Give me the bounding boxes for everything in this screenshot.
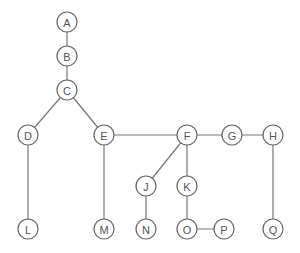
node-q: Q: [263, 219, 283, 239]
node-c: C: [57, 80, 77, 100]
node-p: P: [214, 219, 234, 239]
node-label: M: [99, 224, 108, 236]
node-g: G: [222, 125, 242, 145]
node-label: F: [184, 130, 191, 142]
node-label: O: [183, 224, 192, 236]
node-label: G: [228, 130, 237, 142]
node-o: O: [177, 219, 197, 239]
node-e: E: [94, 125, 114, 145]
node-b: B: [57, 46, 77, 66]
node-label: E: [100, 130, 107, 142]
node-l: L: [18, 219, 38, 239]
node-label: B: [63, 51, 70, 63]
node-j: J: [136, 176, 156, 196]
node-label: P: [220, 224, 227, 236]
node-m: M: [94, 219, 114, 239]
node-label: L: [25, 224, 31, 236]
nodes-layer: ABCDEFGHJKLMNOPQ: [18, 12, 283, 239]
node-label: N: [142, 224, 150, 236]
node-n: N: [136, 219, 156, 239]
node-d: D: [18, 125, 38, 145]
node-label: Q: [269, 224, 278, 236]
node-label: D: [24, 130, 32, 142]
tree-diagram: ABCDEFGHJKLMNOPQ: [0, 0, 300, 253]
node-label: K: [183, 181, 191, 193]
node-a: A: [57, 12, 77, 32]
node-label: A: [63, 17, 71, 29]
node-label: H: [269, 130, 277, 142]
node-h: H: [263, 125, 283, 145]
node-f: F: [177, 125, 197, 145]
node-label: C: [63, 85, 71, 97]
node-label: J: [143, 181, 149, 193]
node-k: K: [177, 176, 197, 196]
